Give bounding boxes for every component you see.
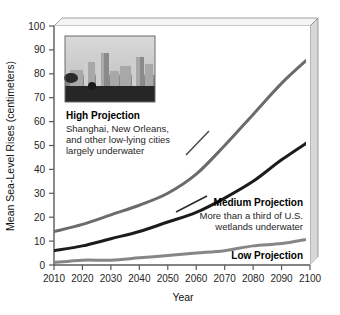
x-tick-label: 2090	[270, 273, 293, 284]
x-tick-label: 2070	[214, 273, 237, 284]
x-tick-label: 2080	[242, 273, 265, 284]
y-tick-label: 90	[34, 44, 46, 55]
x-tick-label: 2040	[128, 273, 151, 284]
x-tick-label: 2020	[71, 273, 94, 284]
y-tick-label: 60	[34, 116, 46, 127]
chart-figure: 0102030405060708090100 20102020203020402…	[0, 0, 340, 315]
y-tick-label: 50	[34, 140, 46, 151]
x-tick-label: 2060	[185, 273, 208, 284]
x-tick-label: 2100	[299, 273, 322, 284]
flooded-city-skyline-photo	[64, 36, 155, 102]
y-axis-title: Mean Sea-Level Rises (centimeters)	[4, 61, 16, 231]
y-tick-label: 0	[39, 260, 45, 271]
x-axis-title: Year	[172, 291, 194, 303]
y-tick-label: 80	[34, 68, 46, 79]
annotation-low-title: Low Projection	[231, 250, 303, 261]
y-tick-label: 40	[34, 164, 46, 175]
y-axis-ticks: 0102030405060708090100	[28, 21, 54, 271]
y-tick-label: 20	[34, 212, 46, 223]
annotation-medium-line-2: wetlands underwater	[214, 221, 303, 232]
annotation-high-line-2: and other low-lying cities	[66, 134, 170, 145]
annotation-medium-line-1: More than a third of U.S.	[200, 210, 304, 221]
annotation-high-line-1: Shanghai, New Orleans,	[66, 123, 169, 134]
x-tick-label: 2010	[43, 273, 66, 284]
x-tick-label: 2030	[100, 273, 123, 284]
y-tick-label: 30	[34, 188, 46, 199]
sea-level-rise-line-chart: 0102030405060708090100 20102020203020402…	[0, 0, 340, 315]
y-tick-label: 10	[34, 236, 46, 247]
annotation-high-line-3: largely underwater	[66, 145, 144, 156]
annotation-high-title: High Projection	[66, 110, 140, 121]
annotation-medium-title: Medium Projection	[214, 197, 303, 208]
y-tick-label: 70	[34, 92, 46, 103]
x-tick-label: 2050	[157, 273, 180, 284]
y-tick-label: 100	[28, 21, 45, 32]
annotation-low-projection: Low Projection	[231, 250, 303, 261]
